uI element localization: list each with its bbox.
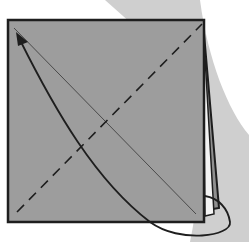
origami-diagram: [0, 0, 249, 242]
diagram-canvas: [0, 0, 249, 242]
